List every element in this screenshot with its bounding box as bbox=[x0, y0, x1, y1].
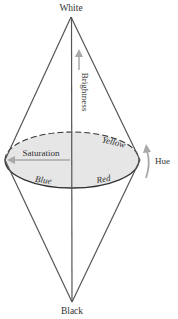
black-label: Black bbox=[61, 306, 83, 316]
brightness-label: Brightness bbox=[80, 73, 90, 112]
saturation-label: Saturation bbox=[23, 148, 60, 158]
hue-rotation-arrow-icon bbox=[143, 144, 151, 178]
hue-label: Hue bbox=[155, 156, 170, 166]
brightness-arrow-icon bbox=[75, 49, 83, 70]
white-label: White bbox=[59, 3, 82, 13]
hsb-double-cone-diagram: White Black Brightness Saturation Hue Ye… bbox=[0, 0, 178, 319]
brightness-axis bbox=[72, 17, 73, 302]
